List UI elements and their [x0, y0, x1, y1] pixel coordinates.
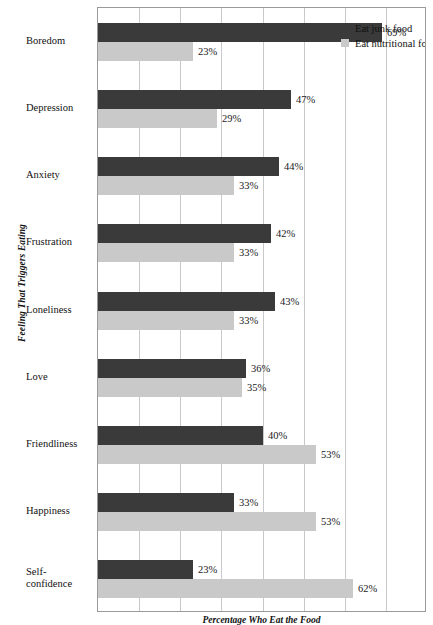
- bar-nutritional-food[interactable]: [98, 445, 316, 464]
- bar-value-label: 23%: [198, 560, 217, 579]
- bar-junk-food[interactable]: [98, 493, 234, 512]
- bar-junk-food[interactable]: [98, 359, 246, 378]
- x-axis-title: Percentage Who Eat the Food: [97, 615, 426, 625]
- bar-nutritional-food[interactable]: [98, 579, 353, 598]
- category-label-line: Loneliness: [26, 304, 72, 315]
- category-label: Anxiety: [0, 169, 92, 181]
- category-label: Love: [0, 371, 92, 383]
- bar-value-label: 62%: [358, 579, 377, 598]
- bar-value-label: 33%: [239, 176, 258, 195]
- bar-chart: Feeling That Triggers Eating BoredomDepr…: [0, 0, 433, 625]
- bar-value-label: 36%: [251, 359, 270, 378]
- legend-item-label: Eat junk food: [355, 23, 412, 34]
- category-label-line: Self-: [26, 566, 46, 577]
- legend: Eat junk food Eat nutritional food only: [341, 21, 426, 51]
- bar-junk-food[interactable]: [98, 292, 275, 311]
- bar-nutritional-food[interactable]: [98, 42, 193, 61]
- bar-value-label: 44%: [284, 157, 303, 176]
- category-label-line: Frustration: [26, 236, 72, 247]
- bar-value-label: 23%: [198, 42, 217, 61]
- category-label-line: Friendliness: [26, 438, 77, 449]
- category-label: Friendliness: [0, 438, 92, 450]
- bar-value-label: 43%: [280, 292, 299, 311]
- bar-nutritional-food[interactable]: [98, 311, 234, 330]
- category-label: Frustration: [0, 236, 92, 248]
- category-label: Happiness: [0, 505, 92, 517]
- bar-junk-food[interactable]: [98, 90, 291, 109]
- legend-swatch-icon: [341, 24, 349, 32]
- category-axis-labels: BoredomDepressionAnxietyFrustrationLonel…: [0, 7, 92, 612]
- bar-nutritional-food[interactable]: [98, 378, 242, 397]
- bar-nutritional-food[interactable]: [98, 512, 316, 531]
- category-label-line: Happiness: [26, 505, 70, 516]
- bar-junk-food[interactable]: [98, 560, 193, 579]
- bar-value-label: 53%: [321, 512, 340, 531]
- category-label-line: Depression: [26, 102, 73, 113]
- category-label-line: Boredom: [26, 35, 65, 46]
- bar-nutritional-food[interactable]: [98, 109, 217, 128]
- category-label: Depression: [0, 102, 92, 114]
- category-label: Self-confidence: [0, 566, 92, 590]
- legend-swatch-icon: [341, 39, 349, 47]
- bar-value-label: 33%: [239, 311, 258, 330]
- legend-item-label: Eat nutritional food only: [355, 38, 426, 49]
- bar-junk-food[interactable]: [98, 224, 271, 243]
- bar-junk-food[interactable]: [98, 157, 279, 176]
- category-label: Loneliness: [0, 304, 92, 316]
- category-label-line: Anxiety: [26, 169, 60, 180]
- bar-junk-food[interactable]: [98, 426, 263, 445]
- category-label: Boredom: [0, 35, 92, 47]
- bar-value-label: 33%: [239, 493, 258, 512]
- bar-value-label: 47%: [296, 90, 315, 109]
- bar-value-label: 33%: [239, 243, 258, 262]
- bar-value-label: 29%: [222, 109, 241, 128]
- category-label-line: Love: [26, 371, 48, 382]
- bar-rows: 69%23%47%29%44%33%42%33%43%33%36%35%40%5…: [98, 8, 425, 611]
- bar-value-label: 40%: [268, 426, 287, 445]
- bar-value-label: 42%: [276, 224, 295, 243]
- bar-nutritional-food[interactable]: [98, 243, 234, 262]
- plot-area: 69%23%47%29%44%33%42%33%43%33%36%35%40%5…: [97, 7, 426, 612]
- bar-value-label: 53%: [321, 445, 340, 464]
- bar-nutritional-food[interactable]: [98, 176, 234, 195]
- category-label-line: confidence: [26, 578, 92, 590]
- bar-junk-food[interactable]: [98, 23, 382, 42]
- legend-item-nutritional-food[interactable]: Eat nutritional food only: [341, 36, 426, 50]
- legend-item-junk-food[interactable]: Eat junk food: [341, 21, 426, 35]
- bar-value-label: 35%: [247, 378, 266, 397]
